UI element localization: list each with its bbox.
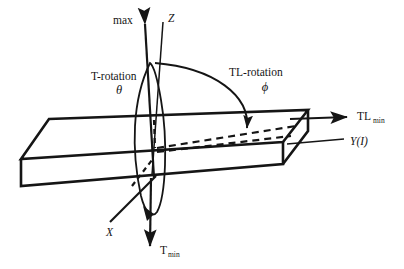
label-z-axis: Z (168, 12, 175, 24)
label-tl-rotation: TL-rotation (229, 66, 283, 78)
label-t-min-base: T (160, 244, 167, 256)
t-rotation-arrowhead (143, 206, 154, 221)
label-tl-rotation-symbol: ϕ (262, 80, 269, 94)
label-y-axis: Y(I) (350, 135, 368, 148)
diagram-canvas: max Z T-rotation θ TL-rotation ϕ TL min … (0, 0, 404, 269)
diagram-root: max Z T-rotation θ TL-rotation ϕ TL min … (0, 0, 404, 269)
label-max: max (113, 14, 133, 26)
label-tl-min-sub: min (373, 116, 385, 125)
label-t-min-sub: min (168, 250, 180, 259)
label-tl-min: TL min (357, 110, 385, 125)
label-t-rotation: T-rotation (91, 70, 137, 82)
label-tl-min-base: TL (357, 110, 371, 122)
label-t-min: T min (160, 244, 180, 259)
label-x-axis: X (105, 226, 114, 238)
label-t-rotation-symbol: θ (116, 83, 122, 97)
